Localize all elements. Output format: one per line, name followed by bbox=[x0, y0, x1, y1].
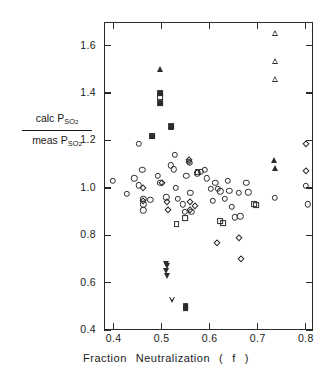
data-point-square-open bbox=[174, 221, 180, 227]
y-tick-right bbox=[306, 282, 313, 283]
data-point-triangle-up-open bbox=[272, 58, 278, 64]
x-tick-label: 0.8 bbox=[286, 332, 326, 344]
data-point-triangle-up-filled bbox=[168, 124, 174, 130]
y-tick bbox=[104, 140, 111, 141]
data-points-layer bbox=[0, 0, 332, 24]
x-tick bbox=[305, 323, 306, 330]
data-point-triangle-down-filled bbox=[164, 273, 170, 279]
data-point-square-open bbox=[182, 215, 188, 221]
data-point-triangle-up-filled bbox=[157, 66, 163, 72]
x-axis-title-word: ( bbox=[219, 352, 223, 364]
data-point-triangle-up-filled bbox=[272, 165, 278, 171]
y-tick-right bbox=[306, 45, 313, 46]
x-tick bbox=[257, 323, 258, 330]
data-point-square-open bbox=[195, 170, 201, 176]
y-tick bbox=[104, 329, 111, 330]
x-axis-title: FractionNeutralization(f) bbox=[0, 352, 332, 364]
x-tick-label: 0.6 bbox=[190, 332, 230, 344]
data-point-square-filled bbox=[157, 100, 163, 106]
y-axis-title-numerator: calc PSO2 bbox=[22, 112, 92, 129]
data-point-triangle-up-filled bbox=[271, 157, 277, 163]
y-tick-label: 0.6 bbox=[64, 276, 96, 288]
x-tick-label: 0.7 bbox=[238, 332, 278, 344]
data-point-triangle-up-open bbox=[272, 76, 278, 82]
y-tick bbox=[104, 282, 111, 283]
data-point-triangle-down-open bbox=[169, 297, 175, 303]
x-tick bbox=[161, 323, 162, 330]
data-point-square-open bbox=[220, 220, 226, 226]
y-num-subscript: SO2 bbox=[64, 117, 78, 126]
y-tick bbox=[104, 45, 111, 46]
y-tick-label: 0.4 bbox=[64, 323, 96, 335]
y-tick bbox=[104, 92, 111, 93]
y-axis-title: calc PSO2 meas PSO2 bbox=[22, 112, 92, 149]
data-point-square-open bbox=[253, 202, 259, 208]
y-tick-right bbox=[306, 329, 313, 330]
y-tick-right bbox=[306, 235, 313, 236]
x-tick-top bbox=[161, 22, 162, 29]
y-tick-right bbox=[306, 92, 313, 93]
x-axis-title-word: f bbox=[232, 352, 236, 364]
scatter-chart-figure: 0.40.60.81.01.21.41.60.40.50.60.70.8 Fra… bbox=[0, 0, 332, 383]
y-tick-label: 0.8 bbox=[64, 228, 96, 240]
y-axis-title-denominator: meas PSO2 bbox=[22, 133, 92, 149]
data-point-square-filled bbox=[149, 133, 155, 139]
x-tick bbox=[209, 323, 210, 330]
y-tick-label: 1.0 bbox=[64, 181, 96, 193]
y-den-text: meas P bbox=[32, 134, 68, 146]
x-tick-top bbox=[113, 22, 114, 29]
data-point-square-filled bbox=[157, 90, 163, 96]
x-axis-title-word: ) bbox=[245, 352, 249, 364]
x-axis-title-word: Neutralization bbox=[136, 352, 210, 364]
x-tick-top bbox=[305, 22, 306, 29]
x-tick-label: 0.4 bbox=[94, 332, 134, 344]
x-tick-top bbox=[209, 22, 210, 29]
y-tick bbox=[104, 235, 111, 236]
data-point-triangle-up-open bbox=[272, 30, 278, 36]
data-point-square-filled bbox=[183, 305, 189, 311]
y-den-subscript: SO2 bbox=[68, 139, 82, 148]
x-tick-label: 0.5 bbox=[142, 332, 182, 344]
fraction-bar bbox=[22, 130, 92, 131]
x-tick-top bbox=[257, 22, 258, 29]
y-tick bbox=[104, 187, 111, 188]
x-axis-title-word: Fraction bbox=[83, 352, 127, 364]
y-tick-label: 1.6 bbox=[64, 39, 96, 51]
x-tick bbox=[113, 323, 114, 330]
y-tick-label: 1.4 bbox=[64, 86, 96, 98]
y-num-text: calc P bbox=[36, 112, 65, 124]
